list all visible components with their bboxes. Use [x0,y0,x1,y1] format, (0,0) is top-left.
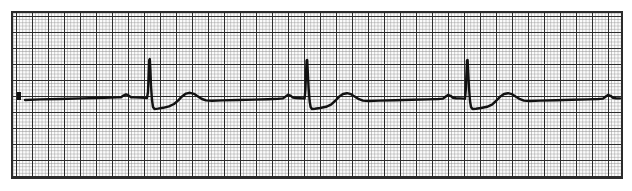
ecg-strip-container [0,0,632,191]
calibration-mark [17,92,21,100]
ecg-grid [12,12,622,178]
ecg-tracing-canvas [0,0,632,191]
